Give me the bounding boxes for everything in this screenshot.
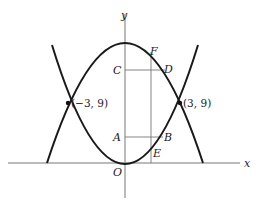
intersection-point-right [178,101,182,105]
y-axis-label: y [120,9,128,22]
point-label-a: A [112,131,121,144]
intersection-label-left: (−3, 9) [71,97,108,109]
x-axis-label: x [244,157,251,170]
parabola-diagram: y x O F C D A B E (−3, 9) (3, 9) [0,0,266,213]
point-label-c: C [113,64,122,77]
point-label-f: F [149,45,158,58]
point-label-e: E [152,147,161,160]
point-label-d: D [163,63,173,76]
intersection-label-right: (3, 9) [183,97,211,109]
intersection-point-left [66,101,70,105]
point-label-b: B [163,131,172,144]
origin-label: O [113,166,122,179]
